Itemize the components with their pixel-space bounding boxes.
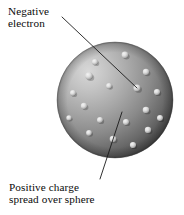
electron-dot [92,59,98,65]
electron-dot [143,69,149,75]
positive-charge-label-line1: Positive charge [9,181,95,193]
electron-dot [145,127,151,133]
electron-dot [66,115,71,120]
electron-dot [130,142,136,148]
electron-dot [106,83,112,89]
negative-electron-label: Negative electron [8,5,49,30]
positive-charge-label-line2: spread over sphere [9,193,95,205]
electron-dot [123,119,129,125]
electron-dot [81,103,87,109]
electron-dot [86,130,92,136]
electron-dot [97,117,103,123]
electron-dot [157,115,163,121]
negative-electron-label-line2: electron [8,17,49,29]
electron-dot [143,107,150,114]
electron-dot [70,90,76,96]
electron-dot [122,52,129,59]
electron-dot [154,89,160,95]
negative-electron-label-line1: Negative [8,5,49,17]
positive-charge-label: Positive charge spread over sphere [9,181,95,206]
electron-dot [85,72,93,80]
atom-model-figure: Negative electron Positive charge spread… [0,0,184,215]
